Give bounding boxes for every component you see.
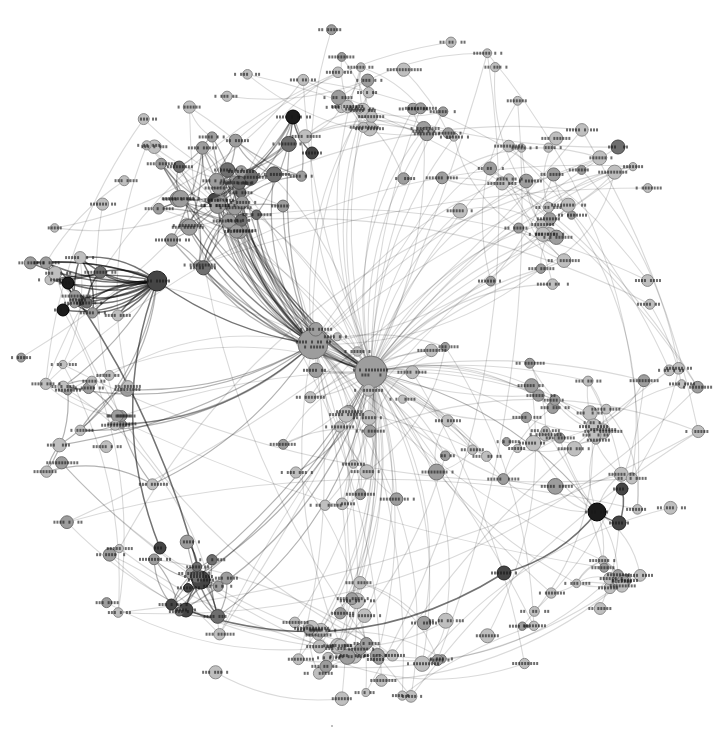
network-graph-figure bbox=[0, 0, 717, 737]
network-graph-canvas bbox=[0, 0, 717, 737]
